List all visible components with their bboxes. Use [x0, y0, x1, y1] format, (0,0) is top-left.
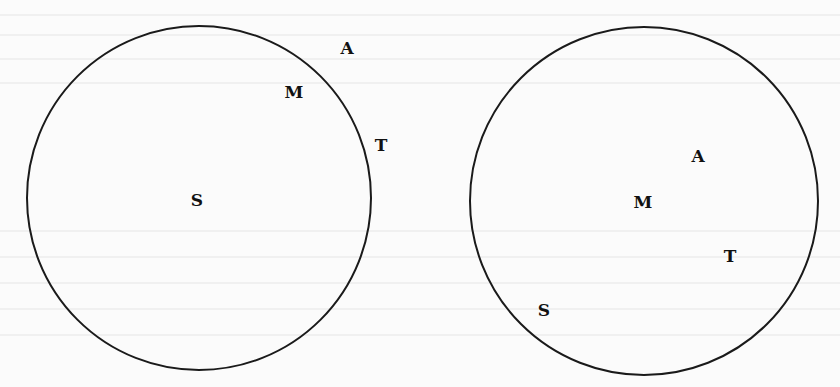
label-s: S [538, 300, 550, 320]
circles-diagram: A M T S A M T S [0, 0, 840, 387]
label-s: S [191, 190, 203, 210]
label-a: A [690, 146, 705, 166]
diagram-canvas: A M T S A M T S [0, 0, 840, 387]
label-m: M [285, 82, 304, 102]
label-t: T [724, 246, 737, 266]
right-panel: A M T S [470, 27, 818, 375]
left-panel: A M T S [27, 26, 388, 370]
label-a: A [339, 38, 354, 58]
label-t: T [375, 135, 388, 155]
label-m: M [634, 192, 653, 212]
